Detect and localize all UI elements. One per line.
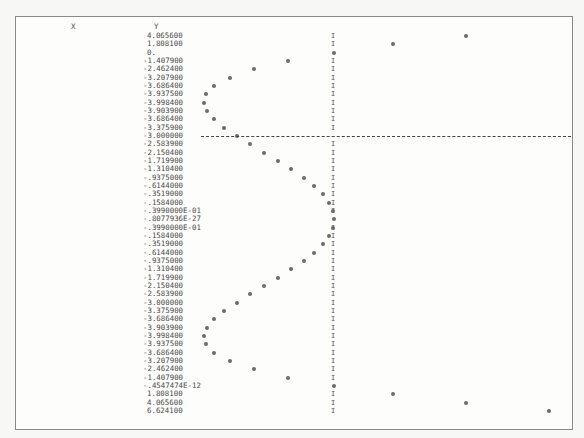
- data-point: [464, 34, 468, 38]
- axis-marker: I: [331, 32, 335, 40]
- data-point: [252, 67, 256, 71]
- data-point: [312, 251, 316, 255]
- axis-marker: I: [331, 40, 335, 48]
- data-point: [202, 334, 206, 338]
- data-point: [302, 176, 306, 180]
- data-point: [212, 117, 216, 121]
- axis-marker: I: [331, 140, 335, 148]
- axis-marker: I: [331, 115, 335, 123]
- data-point: [302, 259, 306, 263]
- data-point: [202, 101, 206, 105]
- axis-marker: I: [331, 182, 335, 190]
- axis-marker: I: [331, 290, 335, 298]
- data-point: [212, 351, 216, 355]
- data-point: [321, 192, 325, 196]
- data-point: [276, 276, 280, 280]
- axis-marker: I: [331, 157, 335, 165]
- data-point: [312, 184, 316, 188]
- axis-marker: I: [331, 349, 335, 357]
- data-point: [205, 109, 209, 113]
- data-point: [332, 51, 336, 55]
- data-point: [205, 326, 209, 330]
- axis-marker: I: [331, 365, 335, 373]
- axis-marker: I: [331, 340, 335, 348]
- axis-marker: I: [331, 307, 335, 315]
- axis-marker: I: [331, 199, 335, 207]
- axis-marker: I: [331, 257, 335, 265]
- axis-marker: I: [331, 90, 335, 98]
- axis-marker: I: [331, 324, 335, 332]
- axis-marker: I: [331, 399, 335, 407]
- axis-marker: I: [331, 240, 335, 248]
- axis-marker: I: [331, 299, 335, 307]
- data-point: [222, 309, 226, 313]
- data-point: [204, 342, 208, 346]
- data-point: [289, 167, 293, 171]
- data-point: [464, 401, 468, 405]
- printout-frame: X Y -1.2000004.065600-1.1000001.808100-1…: [15, 16, 573, 430]
- data-point: [204, 92, 208, 96]
- x-zero-dashed-line: [201, 136, 571, 137]
- axis-marker: I: [331, 282, 335, 290]
- data-point: [331, 209, 335, 213]
- data-point: [332, 217, 336, 221]
- data-point: [391, 42, 395, 46]
- axis-marker: I: [331, 74, 335, 82]
- data-point: [235, 301, 239, 305]
- data-point: [222, 126, 226, 130]
- axis-marker: I: [331, 407, 335, 415]
- axis-marker: I: [331, 232, 335, 240]
- axis-marker: I: [331, 124, 335, 132]
- data-point: [276, 159, 280, 163]
- axis-marker: I: [331, 65, 335, 73]
- axis-marker: I: [331, 57, 335, 65]
- axis-marker: I: [331, 99, 335, 107]
- axis-marker: I: [331, 315, 335, 323]
- axis-marker: I: [331, 390, 335, 398]
- axis-marker: I: [331, 149, 335, 157]
- axis-marker: I: [331, 374, 335, 382]
- data-point: [248, 142, 252, 146]
- axis-marker: I: [331, 265, 335, 273]
- axis-marker: I: [331, 174, 335, 182]
- data-point: [332, 384, 336, 388]
- axis-marker: I: [331, 332, 335, 340]
- sideways-plot: IIIIIIIIIIIIIIIIIIIIIIIIIIIIIIIIIIIIIIII…: [16, 17, 574, 431]
- data-point: [547, 409, 551, 413]
- data-point: [228, 76, 232, 80]
- data-point: [252, 367, 256, 371]
- data-point: [331, 226, 335, 230]
- data-point: [286, 376, 290, 380]
- data-point: [228, 359, 232, 363]
- data-point: [327, 201, 331, 205]
- data-point: [391, 392, 395, 396]
- data-point: [327, 234, 331, 238]
- axis-marker: I: [331, 82, 335, 90]
- data-point: [212, 317, 216, 321]
- data-point: [321, 242, 325, 246]
- axis-marker: I: [331, 165, 335, 173]
- data-point: [248, 292, 252, 296]
- axis-marker: I: [331, 274, 335, 282]
- data-point: [289, 267, 293, 271]
- data-point: [262, 151, 266, 155]
- data-point: [212, 84, 216, 88]
- data-point: [286, 59, 290, 63]
- axis-marker: I: [331, 107, 335, 115]
- axis-marker: I: [331, 357, 335, 365]
- axis-marker: I: [331, 190, 335, 198]
- data-point: [262, 284, 266, 288]
- axis-marker: I: [331, 249, 335, 257]
